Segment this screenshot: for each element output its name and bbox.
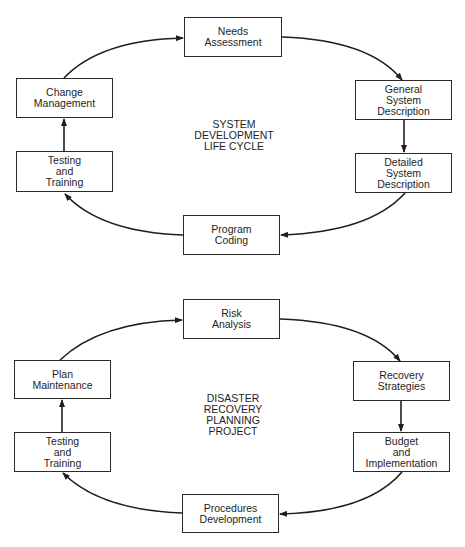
node-needs-assessment: Needs Assessment xyxy=(184,17,282,57)
node-label-line: Description xyxy=(377,179,430,190)
node-plan-maintenance: Plan Maintenance xyxy=(14,360,111,399)
node-label-line: System xyxy=(386,95,421,106)
title-line: LIFE CYCLE xyxy=(164,141,304,152)
arrow-budget-to-procedures xyxy=(280,472,402,514)
node-label-line: General xyxy=(385,84,422,95)
arrow-plan-to-risk xyxy=(60,320,182,360)
node-label-line: Management xyxy=(34,98,95,109)
node-detailed-system-description: Detailed System Description xyxy=(355,153,452,193)
node-label-line: Training xyxy=(46,177,84,188)
node-label-line: and xyxy=(393,447,411,458)
node-change-management: Change Management xyxy=(16,78,113,118)
node-label-line: Implementation xyxy=(366,458,438,469)
node-budget-and-implementation: Budget and Implementation xyxy=(353,432,450,472)
node-label-line: Analysis xyxy=(212,319,251,330)
node-label-line: Assessment xyxy=(204,37,261,48)
node-label-line: Plan xyxy=(52,369,73,380)
node-program-coding: Program Coding xyxy=(183,215,280,255)
arrow-change-to-needs xyxy=(64,38,183,78)
node-label-line: Budget xyxy=(385,436,418,447)
node-label-line: Detailed xyxy=(384,157,423,168)
arrow-coding-to-testing xyxy=(65,194,183,235)
node-label-line: Description xyxy=(377,106,430,117)
arrow-needs-to-general xyxy=(282,37,402,80)
node-testing-and-training: Testing and Training xyxy=(16,151,113,192)
node-label-line: System xyxy=(386,168,421,179)
node-label-line: Testing xyxy=(46,436,79,447)
node-testing-and-training: Testing and Training xyxy=(14,432,111,472)
node-label-line: and xyxy=(54,447,72,458)
node-label-line: Coding xyxy=(215,235,248,246)
node-label-line: Development xyxy=(200,514,262,525)
node-label-line: Maintenance xyxy=(32,380,92,391)
cycle-title-drp: DISASTER RECOVERY PLANNING PROJECT xyxy=(163,393,303,437)
arrow-procedures-to-testing xyxy=(63,473,182,513)
node-procedures-development: Procedures Development xyxy=(182,494,279,533)
title-line: PROJECT xyxy=(163,426,303,437)
node-general-system-description: General System Description xyxy=(355,80,452,120)
node-recovery-strategies: Recovery Strategies xyxy=(353,361,450,401)
node-label-line: Strategies xyxy=(378,381,425,392)
node-risk-analysis: Risk Analysis xyxy=(183,299,280,339)
node-label-line: Procedures xyxy=(204,503,258,514)
arrow-risk-to-recovery xyxy=(280,319,400,361)
node-label-line: Training xyxy=(44,458,82,469)
cycle-title-sdlc: SYSTEM DEVELOPMENT LIFE CYCLE xyxy=(164,119,304,152)
arrow-detailed-to-coding xyxy=(281,193,405,235)
